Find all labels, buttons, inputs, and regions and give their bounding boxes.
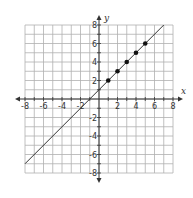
x-axis-arrow-left-icon — [15, 97, 20, 102]
x-tick-label: 4 — [133, 102, 138, 111]
x-tick-label: -6 — [40, 102, 48, 111]
data-point — [134, 50, 139, 55]
x-tick-label: -2 — [77, 102, 85, 111]
data-point — [124, 60, 129, 65]
x-tick-label: -4 — [58, 102, 66, 111]
x-tick-label: 6 — [152, 102, 157, 111]
x-axis-arrow-right-icon — [178, 97, 183, 102]
y-axis-label: y — [103, 13, 110, 23]
coordinate-plane: -8-6-4-22468-8-6-4-22468xy — [0, 0, 193, 198]
y-tick-label: 2 — [92, 77, 97, 86]
y-tick-label: -8 — [89, 169, 97, 178]
y-tick-label: 4 — [92, 58, 97, 67]
x-axis-label: x — [181, 86, 186, 96]
y-tick-label: -4 — [89, 132, 97, 141]
y-tick-label: -6 — [89, 151, 97, 160]
x-tick-label: -8 — [21, 102, 29, 111]
x-tick-label: 8 — [170, 102, 175, 111]
y-tick-label: 8 — [92, 21, 97, 30]
y-axis-arrow-up-icon — [97, 15, 102, 20]
data-point — [143, 41, 148, 46]
y-tick-label: -2 — [89, 114, 97, 123]
y-axis-arrow-down-icon — [97, 178, 102, 183]
data-point — [115, 69, 120, 74]
x-tick-label: 2 — [115, 102, 120, 111]
y-tick-label: 6 — [92, 40, 97, 49]
data-point — [106, 78, 111, 83]
